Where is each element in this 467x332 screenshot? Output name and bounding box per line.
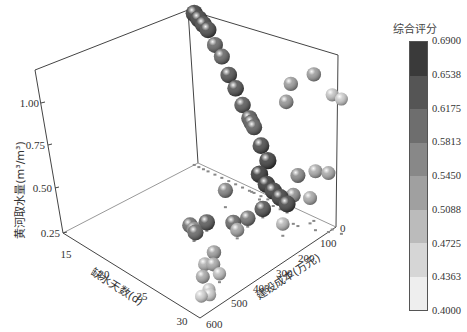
floor-projection-dot	[202, 168, 205, 170]
colorbar-tick: 0.4000	[432, 305, 461, 316]
floor-projection-dot	[224, 206, 227, 208]
sphere-highlight	[187, 224, 203, 240]
colorbar-tick: 0.4363	[432, 271, 461, 282]
sphere-highlight	[307, 67, 321, 81]
x-axis-label: 缺水天数(d)	[88, 265, 146, 308]
sphere-highlight	[240, 210, 256, 226]
floor-projection-dot	[266, 198, 269, 200]
floor-projection-dot	[312, 220, 315, 222]
colorbar-segment	[410, 277, 427, 311]
y-tick: 0	[340, 222, 346, 234]
colorbar-title: 综合评分	[393, 20, 437, 36]
floor-projection-dot	[292, 223, 295, 225]
sphere-highlight	[276, 217, 290, 231]
floor-projection-dot	[193, 164, 196, 166]
y-axis-label: 建设成本(万元)	[253, 250, 323, 302]
z-axis: 0.25 0.50 0.75 1.00 黄河取水量(m³/m³)	[13, 97, 67, 239]
colorbar-tick: 0.5813	[432, 136, 461, 147]
sphere-highlight	[253, 137, 270, 154]
y-axis: 0 100 200 300 400 500 600 建设成本(万元)	[206, 222, 346, 330]
floor-projection-dot	[331, 229, 334, 231]
sphere-highlight	[195, 290, 208, 303]
colorbar-segment	[410, 76, 427, 110]
sphere-highlight	[321, 166, 335, 180]
sphere-highlight	[200, 22, 217, 39]
y-tick: 600	[206, 318, 223, 330]
sphere-highlight	[214, 49, 230, 65]
sphere-highlight	[290, 168, 305, 183]
colorbar-tick: 0.5088	[432, 204, 461, 215]
sphere-highlight	[213, 267, 226, 280]
floor-projection-dot	[253, 192, 256, 194]
colorbar-segment	[410, 143, 427, 177]
sphere-highlight	[227, 80, 244, 97]
sphere-highlight	[279, 95, 294, 110]
floor-projection-dot	[314, 229, 317, 231]
colorbar	[409, 41, 428, 311]
floor-projection-dot	[220, 177, 223, 179]
z-tick: 0.75	[26, 139, 46, 151]
colorbar-segment	[410, 243, 427, 277]
floor-projection-dot	[236, 237, 239, 239]
x-tick: 15	[61, 248, 73, 260]
sphere-highlight	[308, 164, 322, 178]
floor-projection-dot	[259, 195, 262, 197]
floor-projection-dot	[327, 231, 330, 233]
floor-projection-dot	[281, 235, 284, 237]
colorbar-tick: 0.6538	[432, 69, 461, 80]
floor-projection-dot	[197, 166, 200, 168]
floor-projection-dot	[227, 180, 230, 182]
colorbar-segment	[410, 109, 427, 143]
floor-projection-dot	[241, 187, 244, 189]
floor-projection-dot	[340, 233, 343, 235]
sphere-highlight	[254, 201, 271, 218]
sphere-highlight	[218, 183, 233, 198]
colorbar-segment	[410, 42, 427, 76]
floor-projection-dot	[218, 281, 221, 283]
floor-projection-dot	[213, 174, 216, 176]
z-axis-label: 黄河取水量(m³/m³)	[13, 141, 27, 239]
colorbar-tick: 0.6900	[432, 35, 461, 46]
sphere-highlight	[335, 93, 348, 106]
colorbar-tick: 0.5450	[432, 170, 461, 181]
data-points	[182, 5, 348, 303]
colorbar-tick: 0.4725	[432, 238, 461, 249]
colorbar-tick: 0.6175	[432, 103, 461, 114]
sphere-highlight	[279, 196, 296, 213]
y-tick: 500	[231, 297, 248, 309]
colorbar-segment	[410, 176, 427, 210]
floor-projection-dot	[309, 222, 312, 224]
floor-projection-dot	[234, 183, 237, 185]
sphere-highlight	[303, 191, 317, 205]
z-tick: 0.50	[33, 182, 53, 194]
x-axis-line	[63, 233, 200, 318]
x-tick: 30	[177, 315, 189, 327]
sphere-highlight	[196, 270, 210, 284]
z-tick: 1.00	[20, 97, 40, 109]
scatter3d-plot: 0.25 0.50 0.75 1.00 黄河取水量(m³/m³) 15 20 2…	[0, 0, 390, 332]
sphere-highlight	[284, 77, 298, 91]
sphere-highlight	[246, 119, 262, 135]
floor-projection-dot	[207, 170, 210, 172]
y-tick: 100	[320, 237, 337, 249]
floor-projection-dot	[272, 205, 275, 207]
z-tick: 0.25	[41, 227, 61, 239]
floor-projection-dot	[258, 198, 261, 200]
floor-projection-dot	[296, 225, 299, 227]
x-axis: 15 20 25 30 缺水天数(d)	[61, 248, 189, 327]
sphere-highlight	[230, 223, 244, 237]
colorbar-segment	[410, 210, 427, 244]
